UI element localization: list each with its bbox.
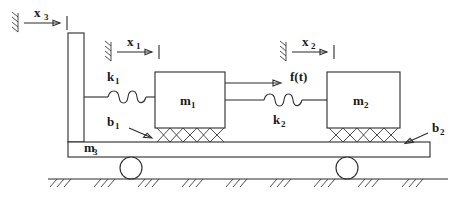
wheels	[120, 157, 358, 179]
force-arrow-ft: f(t)	[225, 69, 307, 86]
x3-label: x	[34, 5, 41, 20]
k1-coils	[108, 91, 146, 103]
x2-subscript: 2	[311, 41, 316, 51]
b1-leader-line	[129, 128, 150, 137]
ft-label: f(t)	[290, 69, 307, 84]
b1-label: b	[107, 114, 114, 129]
wall-hatch-x1	[105, 41, 111, 61]
m1-subscript: 1	[191, 100, 196, 110]
m3-subscript: 3	[93, 147, 98, 157]
b2-label: b	[432, 120, 439, 135]
k2-subscript: 2	[281, 119, 286, 129]
k2-coils	[264, 94, 302, 106]
spring-k1: k 1	[84, 69, 155, 103]
b2-leader-line	[408, 133, 428, 142]
wheel-right	[336, 157, 358, 179]
wheel-left	[120, 157, 142, 179]
x1-label: x	[127, 34, 134, 49]
b2-cross-pattern	[329, 128, 398, 142]
wall-hatch-x2	[280, 41, 286, 61]
mass-m1: m 1	[155, 72, 225, 128]
b1-cross-pattern	[157, 128, 224, 142]
platform-column	[68, 33, 84, 142]
b2-subscript: 2	[440, 127, 445, 137]
x1-subscript: 1	[136, 41, 141, 51]
coordinate-marker-x1: x 1	[105, 34, 159, 61]
diagram-canvas: x 3 x 1	[0, 0, 475, 198]
platform-beam	[68, 142, 430, 157]
k1-subscript: 1	[115, 76, 120, 86]
x3-subscript: 3	[44, 12, 49, 22]
mass-m2: m 2	[327, 72, 400, 128]
coordinate-marker-x3: x 3	[12, 5, 67, 32]
ground	[48, 179, 448, 187]
m2-subscript: 2	[364, 100, 369, 110]
m2-label: m	[353, 93, 364, 108]
wall-hatch-x3	[12, 12, 18, 32]
mechanical-system-diagram: x 3 x 1	[0, 0, 475, 198]
m1-label: m	[180, 93, 191, 108]
x2-label: x	[302, 34, 309, 49]
k2-label: k	[273, 112, 281, 127]
coordinate-marker-x2: x 2	[280, 34, 334, 61]
ground-hatching	[50, 179, 423, 187]
k1-label: k	[107, 69, 115, 84]
spring-k2: k 2	[225, 94, 327, 129]
b1-subscript: 1	[115, 121, 120, 131]
